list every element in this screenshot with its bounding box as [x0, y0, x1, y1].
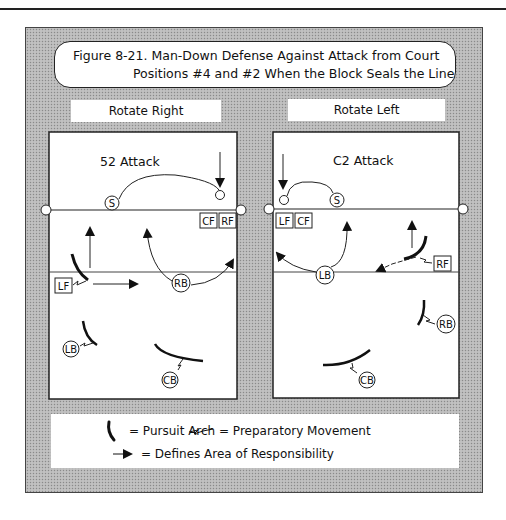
attack-name-c2: C2 Attack — [333, 153, 394, 168]
svg-text:RF: RF — [221, 216, 234, 227]
svg-text:CB: CB — [163, 375, 177, 386]
svg-text:CB: CB — [360, 375, 374, 386]
svg-text:RB: RB — [439, 319, 453, 330]
court-diagrams: 52 Attack S CF RF LF RB LB CB — [0, 0, 506, 520]
svg-text:CF: CF — [297, 216, 310, 227]
hitter-circle — [216, 191, 225, 200]
setter-label: S — [109, 198, 115, 209]
right-court: C2 Attack S LF CF LB RF RB CB — [264, 132, 468, 398]
svg-text:LB: LB — [65, 344, 78, 355]
right-antenna-icon — [458, 204, 468, 214]
left-antenna-icon — [236, 205, 246, 215]
attack-name-52: 52 Attack — [100, 154, 161, 169]
svg-text:RB: RB — [174, 278, 188, 289]
svg-text:LF: LF — [279, 216, 291, 227]
svg-text:S: S — [334, 195, 340, 206]
svg-text:CF: CF — [202, 216, 215, 227]
left-antenna-icon — [41, 205, 51, 215]
hitter-circle — [280, 196, 289, 205]
svg-text:RF: RF — [436, 259, 449, 270]
left-court: 52 Attack S CF RF LF RB LB CB — [41, 132, 246, 399]
svg-text:LF: LF — [58, 281, 70, 292]
right-antenna-icon — [264, 204, 274, 214]
svg-text:LB: LB — [319, 270, 332, 281]
